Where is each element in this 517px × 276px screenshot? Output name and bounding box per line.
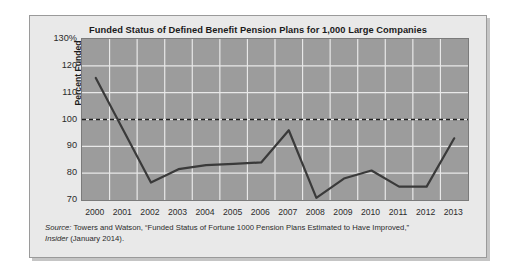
chart-figure: Funded Status of Defined Benefit Pension… [29, 15, 487, 258]
x-tick-label: 2006 [251, 207, 270, 217]
y-tick-label: 100 [62, 114, 77, 124]
x-tick-label: 2005 [223, 207, 242, 217]
source-label: Source: [45, 223, 72, 232]
y-tick-label: 130% [54, 33, 78, 43]
source-line1: Towers and Watson, “Funded Status of For… [72, 223, 410, 232]
x-tick-label: 2004 [196, 207, 215, 217]
x-tick-label: 2003 [168, 207, 187, 217]
source-publication: Insider [45, 234, 68, 243]
x-tick-label: 2002 [140, 207, 159, 217]
y-tick-label: 90 [67, 140, 77, 150]
x-tick-label: 2007 [278, 207, 297, 217]
x-tick-label: 2013 [444, 207, 463, 217]
x-tick-label: 2000 [85, 207, 104, 217]
x-tick-label: 2010 [361, 207, 380, 217]
plot-svg [82, 39, 469, 201]
x-tick-label: 2008 [306, 207, 325, 217]
y-tick-label: 110 [62, 87, 77, 97]
plot-area [81, 38, 469, 201]
y-tick-label: 120 [62, 60, 77, 70]
x-tick-label: 2009 [333, 207, 352, 217]
source-line2: (January 2014). [68, 234, 124, 243]
x-tick-label: 2011 [389, 207, 407, 217]
x-tick-label: 2001 [113, 207, 132, 217]
y-tick-label: 80 [67, 167, 77, 177]
source-note: Source: Towers and Watson, “Funded Statu… [45, 223, 472, 244]
x-tick-label: 2012 [416, 207, 435, 217]
y-tick-label: 70 [67, 194, 77, 204]
chart-title: Funded Status of Defined Benefit Pension… [30, 25, 486, 35]
